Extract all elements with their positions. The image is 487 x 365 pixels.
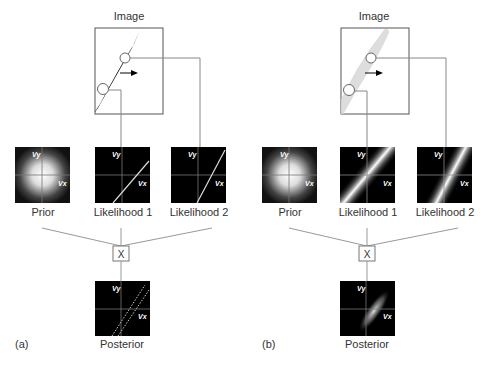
image-label: Image: [114, 10, 145, 22]
multiply-symbol: X: [364, 249, 371, 260]
likelihood2-label: Likelihood 2: [416, 206, 475, 218]
prior-label: Prior: [278, 206, 302, 218]
panel-a: Image Vy Vx Prior: [15, 10, 228, 350]
vx-axis-label: Vx: [138, 180, 148, 187]
prior-label: Prior: [31, 206, 55, 218]
combine-line-prior: [289, 228, 367, 246]
posterior-label: Posterior: [100, 338, 144, 350]
vx-axis-label: Vx: [383, 313, 393, 320]
image-label: Image: [359, 10, 390, 22]
likelihood1-plot: Vy Vx: [95, 147, 150, 203]
combine-line-l2: [121, 228, 212, 246]
panel-tag-b: (b): [262, 338, 275, 350]
aperture-lower: [344, 85, 355, 96]
prior-plot: Vy Vx: [15, 147, 70, 203]
vy-axis-label: Vy: [357, 285, 367, 293]
vx-axis-label: Vx: [383, 180, 393, 187]
vx-axis-label: Vx: [215, 180, 225, 187]
vy-axis-label: Vy: [112, 151, 122, 159]
panel-tag-a: (a): [15, 338, 28, 350]
combine-line-l2: [367, 228, 458, 246]
aperture-upper: [366, 53, 376, 63]
vx-axis-label: Vx: [305, 180, 315, 187]
image-box: [92, 28, 163, 116]
multiply-box: X: [359, 246, 375, 261]
posterior-plot: Vy Vx: [340, 281, 395, 336]
vy-axis-label: Vy: [434, 151, 444, 159]
vy-axis-label: Vy: [357, 151, 367, 159]
prior-plot: Vy Vx: [262, 147, 317, 203]
likelihood1-label: Likelihood 1: [339, 206, 398, 218]
vy-axis-label: Vy: [112, 285, 122, 293]
multiply-symbol: X: [118, 249, 125, 260]
bayesian-motion-figure: Image Vy Vx Prior: [0, 0, 487, 365]
combine-line-prior: [42, 228, 121, 246]
vx-axis-label: Vx: [138, 313, 148, 320]
aperture-lower: [98, 84, 109, 95]
posterior-plot: Vy Vx: [95, 281, 150, 336]
vy-axis-label: Vy: [188, 151, 198, 159]
likelihood1-label: Likelihood 1: [94, 206, 153, 218]
image-box: [336, 28, 409, 116]
likelihood2-plot: Vy Vx: [171, 147, 226, 203]
panel-b: Image Vy Vx Prior: [262, 10, 482, 350]
vx-axis-label: Vx: [58, 180, 68, 187]
posterior-label: Posterior: [345, 338, 389, 350]
vy-axis-label: Vy: [280, 151, 290, 159]
vy-axis-label: Vy: [32, 151, 42, 159]
multiply-box: X: [113, 246, 129, 261]
aperture-upper: [120, 53, 130, 63]
likelihood2-label: Likelihood 2: [170, 206, 229, 218]
vx-axis-label: Vx: [460, 180, 470, 187]
